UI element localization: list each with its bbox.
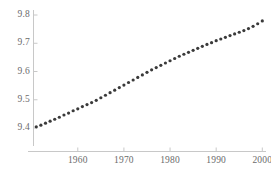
data-point — [35, 125, 38, 128]
data-point — [58, 116, 61, 119]
data-point — [127, 81, 130, 84]
data-point — [99, 96, 102, 99]
data-point — [261, 19, 264, 22]
data-point — [251, 25, 254, 28]
data-point — [205, 43, 208, 46]
data-point — [201, 45, 204, 48]
x-tick-label: 1960 — [58, 155, 98, 165]
data-point — [141, 73, 144, 76]
data-point — [247, 27, 250, 30]
y-tick-label: 9.5 — [18, 94, 30, 104]
data-point — [224, 36, 227, 39]
data-point — [108, 91, 111, 94]
data-point — [228, 34, 231, 37]
data-point — [53, 118, 56, 121]
data-point — [242, 29, 245, 32]
data-point — [150, 68, 153, 71]
y-tick-label: 9.7 — [18, 37, 30, 47]
data-point — [238, 31, 241, 34]
data-point — [145, 71, 148, 74]
data-point — [44, 122, 47, 125]
data-point — [122, 83, 125, 86]
y-tick-marks — [34, 15, 38, 128]
y-tick-label: 9.6 — [18, 66, 30, 76]
data-point — [192, 49, 195, 52]
data-point — [81, 105, 84, 108]
data-point — [72, 109, 75, 112]
axes-group — [28, 10, 266, 152]
data-point — [132, 78, 135, 81]
data-point — [178, 55, 181, 58]
x-tick-label: 1990 — [196, 155, 236, 165]
data-point — [173, 57, 176, 60]
x-tick-label: 1980 — [150, 155, 190, 165]
data-point-series — [35, 19, 264, 128]
data-point — [67, 111, 70, 114]
data-point — [210, 41, 213, 44]
data-point — [215, 39, 218, 42]
data-point — [104, 94, 107, 97]
data-point — [76, 107, 79, 110]
x-tick-label: 1970 — [104, 155, 144, 165]
data-point — [95, 99, 98, 102]
chart-container: 9.49.59.69.79.8 19601970198019902000 — [0, 0, 271, 182]
data-point — [168, 59, 171, 62]
data-point — [196, 47, 199, 50]
data-point — [155, 66, 158, 69]
data-point — [62, 113, 65, 116]
data-point — [182, 53, 185, 56]
y-tick-label: 9.4 — [18, 122, 30, 132]
data-point — [90, 101, 93, 104]
data-point — [256, 22, 259, 25]
data-point — [39, 124, 42, 127]
y-tick-label: 9.8 — [18, 9, 30, 19]
data-point — [219, 37, 222, 40]
data-point — [118, 86, 121, 89]
x-tick-label: 2000 — [242, 155, 271, 165]
data-point — [164, 61, 167, 64]
data-point — [159, 64, 162, 67]
data-point — [187, 51, 190, 54]
data-point — [136, 76, 139, 79]
data-point — [49, 120, 52, 123]
x-tick-marks — [78, 148, 263, 152]
data-point — [113, 89, 116, 92]
data-point — [233, 32, 236, 35]
data-point — [85, 103, 88, 106]
